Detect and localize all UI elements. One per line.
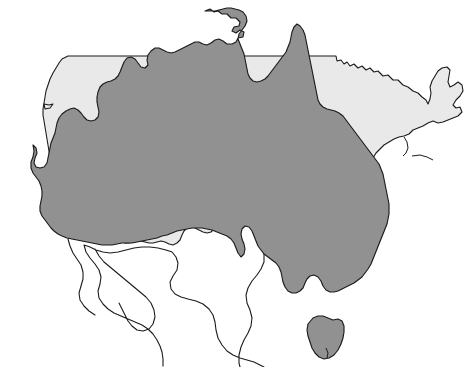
map-overlay-figure <box>0 0 474 367</box>
map-canvas <box>0 0 474 367</box>
